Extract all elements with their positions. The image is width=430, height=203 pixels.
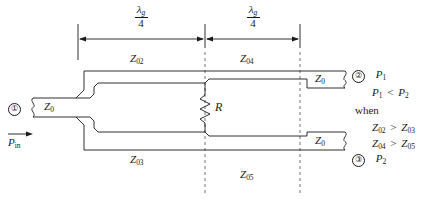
port-marker-output-bottom-group: ③ P2 (352, 152, 386, 167)
dimension-label-right: λg 4 (238, 4, 268, 29)
figure-canvas: λg 4 λg 4 Z02 Z04 Z03 Z05 R ① Z0 Pin Z0 (0, 0, 430, 203)
dimension-right-denominator: 4 (238, 18, 268, 29)
circled-number-2: ② (352, 70, 365, 83)
output-port2-brace (344, 71, 346, 88)
divider-body-outline (76, 71, 205, 150)
label-z05: Z05 (240, 168, 254, 182)
dimension-left-numerator: λg (126, 4, 156, 16)
bottom-right-line-z05 (205, 132, 300, 150)
port-marker-input: ① (8, 101, 21, 116)
label-output-bottom-power: P2 (376, 152, 386, 164)
port-marker-output-top-group: ② P1 (352, 68, 386, 83)
label-output3-impedance: Z0 (315, 134, 325, 148)
circled-number-1: ① (8, 103, 21, 116)
input-power-arrowhead (26, 131, 33, 136)
label-resistor-r: R (215, 100, 222, 115)
dimension-label-left: λg 4 (126, 4, 156, 29)
label-input-impedance: Z0 (44, 100, 54, 114)
condition-when-label: when (355, 104, 379, 116)
label-z04: Z04 (240, 52, 254, 66)
label-output-top-power: P1 (376, 68, 386, 80)
label-output2-impedance: Z0 (315, 72, 325, 86)
input-feedline-trace (33, 98, 76, 117)
dimension-left-denominator: 4 (126, 18, 156, 29)
label-z02: Z02 (130, 52, 144, 66)
dimension-right-numerator: λg (238, 4, 268, 16)
label-z03: Z03 (130, 153, 144, 167)
top-right-line-z04 (205, 71, 300, 83)
condition-power-inequality: P1 < P2 (372, 86, 409, 100)
output-port3-brace (344, 132, 346, 150)
condition-rule-2: Z04 > Z05 (372, 137, 415, 151)
input-port-brace (32, 98, 34, 117)
condition-rule-1: Z02 > Z03 (372, 121, 415, 135)
label-input-power: Pin (8, 136, 21, 150)
circled-number-3: ③ (352, 154, 365, 167)
